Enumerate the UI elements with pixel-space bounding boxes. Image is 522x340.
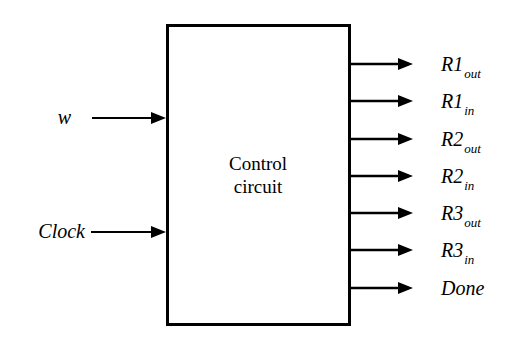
diagram-canvas: Control circuit wClock R1outR1inR2outR2i… <box>0 0 522 340</box>
block-label-line-1: Control <box>229 153 287 174</box>
block-label-line-2: circuit <box>234 176 283 197</box>
block-diagram-figure: Control circuit wClock R1outR1inR2outR2i… <box>0 0 522 340</box>
input-clock-label: Clock <box>38 220 86 242</box>
input-w-label: w <box>58 106 72 128</box>
control-circuit-block-outline <box>168 26 350 325</box>
output-done-label: Done <box>440 277 484 299</box>
